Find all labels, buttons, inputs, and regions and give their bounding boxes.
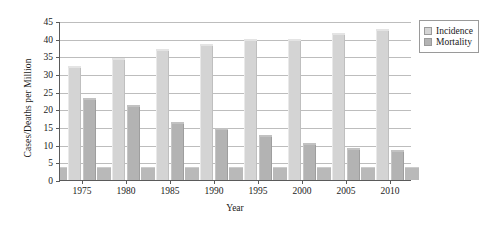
y-axis-tick-label: 25 — [44, 88, 54, 98]
bar-face — [347, 148, 360, 180]
bar-face — [200, 44, 213, 180]
legend-item-mortality: Mortality — [424, 37, 473, 47]
bar-face — [112, 58, 125, 180]
bar-top-highlight — [215, 128, 228, 130]
x-axis-tick-label-2005: 2005 — [337, 186, 356, 196]
x-axis-tick — [82, 180, 83, 184]
bar-incidence-2000 — [288, 39, 301, 180]
bar-face — [303, 143, 316, 180]
legend-label-incidence: Incidence — [436, 26, 473, 36]
baseline-plinth — [141, 167, 155, 180]
y-axis-tick-label: 35 — [44, 52, 54, 62]
bar-face — [332, 33, 345, 180]
y-axis-tick-label: 40 — [44, 35, 54, 45]
bar-incidence-1990 — [200, 44, 213, 180]
bar-mortality-2010 — [391, 150, 404, 180]
bar-top-highlight — [391, 150, 404, 152]
bar-incidence-1995 — [244, 39, 257, 180]
x-axis-tick — [170, 180, 171, 184]
bars-layer — [60, 22, 411, 180]
bar-top-highlight — [303, 143, 316, 145]
y-axis-tick-label: 45 — [44, 17, 54, 27]
x-axis-title: Year — [59, 203, 411, 213]
baseline-plinth — [317, 167, 331, 180]
bar-top-highlight — [156, 49, 169, 51]
bar-face — [215, 128, 228, 180]
y-axis-tick-label: 20 — [44, 105, 54, 115]
x-axis-tick — [258, 180, 259, 184]
baseline-plinth — [97, 167, 111, 180]
y-axis-tick-label: 0 — [48, 176, 53, 186]
baseline-plinth — [229, 167, 243, 180]
y-axis-tick-label: 15 — [44, 123, 54, 133]
x-axis-tick-label-2000: 2000 — [293, 186, 312, 196]
bar-face — [376, 29, 389, 180]
bar-top-highlight — [288, 39, 301, 41]
x-axis-tick-label-1980: 1980 — [117, 186, 136, 196]
bar-mortality-1990 — [215, 128, 228, 180]
plot-area: 051015202530354045 197519801985199019952… — [59, 22, 411, 181]
baseline-plinth — [405, 167, 419, 180]
x-axis-tick — [214, 180, 215, 184]
bar-top-highlight — [332, 33, 345, 35]
x-axis-tick — [346, 180, 347, 184]
bar-incidence-1985 — [156, 49, 169, 180]
bar-mortality-1985 — [171, 122, 184, 180]
bar-top-highlight — [259, 135, 272, 137]
baseline-plinth — [185, 167, 199, 180]
bar-mortality-1995 — [259, 135, 272, 180]
y-axis-tick-label: 30 — [44, 70, 54, 80]
x-axis-tick-label-1995: 1995 — [249, 186, 268, 196]
x-axis-tick — [390, 180, 391, 184]
bar-mortality-1980 — [127, 105, 140, 180]
x-axis-tick-label-1985: 1985 — [161, 186, 180, 196]
bar-face — [127, 105, 140, 180]
y-axis-tick-label: 10 — [44, 141, 54, 151]
bar-top-highlight — [127, 105, 140, 107]
x-axis-tick-label-1975: 1975 — [73, 186, 92, 196]
chart-legend: Incidence Mortality — [419, 20, 479, 53]
bar-top-highlight — [200, 44, 213, 46]
x-axis-tick-label-1990: 1990 — [205, 186, 224, 196]
bar-face — [171, 122, 184, 180]
bar-face — [288, 39, 301, 180]
legend-item-incidence: Incidence — [424, 26, 473, 36]
bar-chart-figure: Cases/Deaths per Million 051015202530354… — [0, 0, 502, 227]
bar-face — [244, 39, 257, 180]
bar-face — [259, 135, 272, 180]
x-axis-tick — [302, 180, 303, 184]
bar-mortality-1975 — [83, 98, 96, 180]
bar-top-highlight — [112, 58, 125, 60]
bar-incidence-2010 — [376, 29, 389, 180]
bar-top-highlight — [83, 98, 96, 100]
bar-top-highlight — [244, 39, 257, 41]
y-axis-tick — [56, 181, 60, 182]
bar-incidence-2005 — [332, 33, 345, 180]
legend-label-mortality: Mortality — [436, 37, 472, 47]
bar-top-highlight — [347, 148, 360, 150]
bar-mortality-2000 — [303, 143, 316, 180]
bar-incidence-1975 — [68, 66, 81, 180]
baseline-plinth — [273, 167, 287, 180]
baseline-plinth — [361, 167, 375, 180]
bar-top-highlight — [171, 122, 184, 124]
legend-swatch-mortality-icon — [424, 38, 432, 46]
y-axis-title: Cases/Deaths per Million — [23, 28, 33, 188]
bar-face — [83, 98, 96, 180]
bar-top-highlight — [376, 29, 389, 31]
bar-face — [156, 49, 169, 180]
bar-face — [391, 150, 404, 180]
bar-face — [68, 66, 81, 180]
bar-incidence-1980 — [112, 58, 125, 180]
y-axis-tick-label: 5 — [48, 158, 53, 168]
bar-top-highlight — [68, 66, 81, 68]
x-axis-tick — [126, 180, 127, 184]
legend-swatch-incidence-icon — [424, 27, 432, 35]
bar-mortality-2005 — [347, 148, 360, 180]
baseline-plinth — [60, 167, 67, 180]
x-axis-tick-label-2010: 2010 — [381, 186, 400, 196]
